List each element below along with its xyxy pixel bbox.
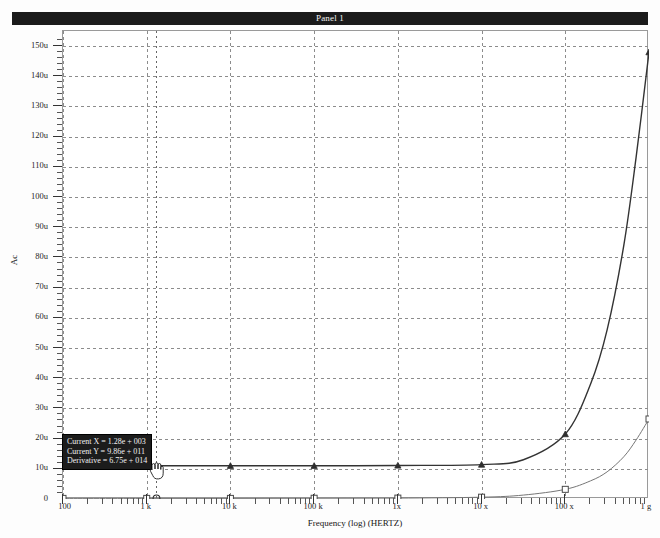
- data-point-marker: [646, 416, 649, 422]
- y-tick-label: 150u: [31, 41, 48, 50]
- tooltip-line-current-x: Current X = 1.28e + 003: [67, 437, 147, 447]
- tooltip-line-current-y: Current Y = 9.86e + 011: [67, 447, 147, 457]
- y-tick-label: 60u: [35, 312, 48, 321]
- panel-title-bar[interactable]: Panel 1: [12, 12, 648, 25]
- x-axis-tick-labels: 1001 k10 k100 k1x10 x100 x1 g: [62, 502, 648, 518]
- y-tick-label: 70u: [35, 282, 48, 291]
- data-point-marker: [646, 49, 649, 55]
- panel-window: Panel 1 Ac 150u140u130u120u110u100u90u80…: [0, 0, 660, 538]
- x-axis-tick-marks: [62, 494, 648, 504]
- y-tick-label: 120u: [31, 131, 48, 140]
- hand-pointer-cursor-icon: [148, 461, 166, 481]
- y-tick-label: 40u: [35, 373, 48, 382]
- y-tick-label: 50u: [35, 343, 48, 352]
- cursor-readout-tooltip: Current X = 1.28e + 003 Current Y = 9.86…: [62, 434, 152, 470]
- y-tick-label: 140u: [31, 71, 48, 80]
- page-title: Panel 1: [316, 14, 344, 23]
- y-tick-label: 80u: [35, 252, 48, 261]
- y-tick-label: 130u: [31, 101, 48, 110]
- chart-canvas[interactable]: [63, 31, 649, 499]
- series-trace-1: [63, 52, 649, 466]
- y-axis-tick-marks: [50, 30, 62, 498]
- y-tick-label: 90u: [35, 222, 48, 231]
- y-tick-label: 20u: [35, 433, 48, 442]
- tooltip-line-derivative: Derivative = 6.75e + 014: [67, 456, 147, 466]
- y-tick-label: 100u: [31, 192, 48, 201]
- y-tick-label: 110u: [31, 161, 48, 170]
- x-axis-title: Frequency (log) (HERTZ): [62, 518, 648, 528]
- y-tick-label: 30u: [35, 403, 48, 412]
- plot-area[interactable]: [62, 30, 648, 498]
- data-point-marker: [562, 486, 568, 492]
- y-tick-label: 0: [44, 494, 48, 503]
- y-tick-label: 10u: [35, 463, 48, 472]
